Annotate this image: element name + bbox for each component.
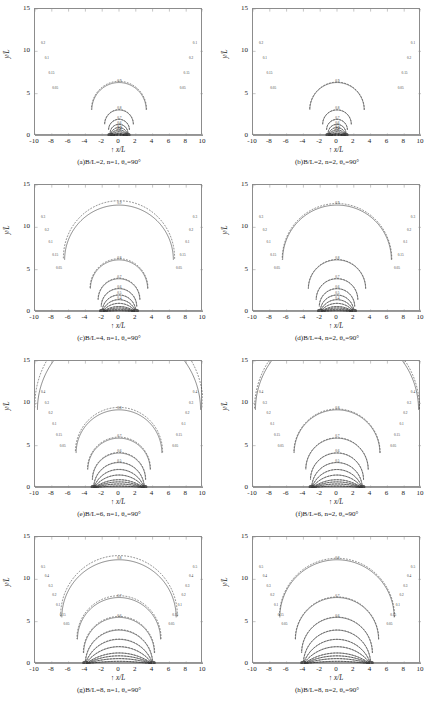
contour-label-g-inner-0.7: 0.7 xyxy=(117,594,122,598)
contour-label-g-left-0.4: 0.4 xyxy=(45,574,50,578)
contour-solid-c-0.9 xyxy=(65,205,174,260)
x-tick-label: -6 xyxy=(277,665,295,673)
contour-label-f-right-0.15: 0.15 xyxy=(394,433,400,437)
y-axis-label-e: y/L xyxy=(3,400,11,412)
contour-label-h-left-0.4: 0.4 xyxy=(263,574,268,578)
contour-label-e-right-0.2: 0.2 xyxy=(185,411,190,415)
x-axis-label-text: x/L xyxy=(116,322,125,330)
x-tick-label: -6 xyxy=(277,489,295,497)
y-tick-label: 15 xyxy=(8,532,30,540)
x-tick-label: 8 xyxy=(394,665,412,673)
contour-label-h-right-0.4: 0.4 xyxy=(407,574,412,578)
x-tick-label: 4 xyxy=(361,489,379,497)
contour-solid-f-0.8 xyxy=(294,410,380,453)
contour-label-a-left-0.05: 0.05 xyxy=(52,86,58,90)
contour-canvas-c: 0.40.50.60.70.80.90.30.20.10.150.050.30.… xyxy=(35,185,203,312)
contour-label-b-left-0.2: 0.2 xyxy=(259,41,264,45)
contour-label-b-inner-0.8: 0.8 xyxy=(335,106,340,110)
x-tick-label: 8 xyxy=(394,313,412,321)
contour-label-d-inner-0.4: 0.4 xyxy=(335,296,340,300)
contour-label-e-right-0.05: 0.05 xyxy=(172,444,178,448)
x-tick-label: -4 xyxy=(75,313,93,321)
y-tick-label: 5 xyxy=(226,441,248,449)
x-tick-label: 6 xyxy=(159,313,177,321)
contour-dashed-g-0.6 xyxy=(83,616,154,652)
x-tick-label: 4 xyxy=(143,665,161,673)
panel-caption-f: (f)B/L=6, n=2, θ₀=90° xyxy=(218,510,436,518)
bottom-note xyxy=(0,697,436,706)
contour-label-e-left-0.2: 0.2 xyxy=(48,411,53,415)
x-tick-label: -6 xyxy=(277,313,295,321)
contour-label-d-left-0.3: 0.3 xyxy=(259,215,264,219)
x-tick-label: 6 xyxy=(377,489,395,497)
contour-label-f-left-0.1: 0.1 xyxy=(270,422,275,426)
x-axis-label-text: x/L xyxy=(334,498,343,506)
contour-label-c-left-0.15: 0.15 xyxy=(52,253,58,257)
panel-e: 0.50.60.70.80.40.30.20.10.150.050.40.30.… xyxy=(0,352,218,528)
contour-label-a-left-0.1: 0.1 xyxy=(45,56,50,60)
x-tick-label: 10 xyxy=(193,137,211,145)
contour-dashed-e-0.4 xyxy=(94,469,145,488)
contour-label-a-right-0.05: 0.05 xyxy=(180,86,186,90)
x-tick-label: 4 xyxy=(361,665,379,673)
x-tick-label: 6 xyxy=(377,137,395,145)
x-axis-label-c: ↑ x/L xyxy=(34,322,202,330)
x-tick-label: -10 xyxy=(25,665,43,673)
contour-canvas-f: 0.50.60.70.80.40.30.20.10.150.050.40.30.… xyxy=(253,361,421,488)
x-tick-label: 0 xyxy=(327,313,345,321)
contour-label-a-inner-0.8: 0.8 xyxy=(117,106,122,110)
contour-label-h-right-0.1: 0.1 xyxy=(396,603,401,607)
contour-label-e-inner-0.7: 0.7 xyxy=(117,434,122,438)
contour-solid-e-0.4 xyxy=(94,470,144,488)
x-tick-label: -6 xyxy=(277,137,295,145)
contour-label-e-right-0.1: 0.1 xyxy=(182,422,187,426)
contour-label-h-inner-0.8: 0.8 xyxy=(335,556,340,560)
x-tick-label: -8 xyxy=(260,137,278,145)
y-tick-label: 0 xyxy=(226,307,248,315)
contour-label-e-inner-0.8: 0.8 xyxy=(117,406,122,410)
contour-label-g-right-0.05: 0.05 xyxy=(169,622,175,626)
x-tick-label: 4 xyxy=(143,137,161,145)
contour-label-f-left-0.3: 0.3 xyxy=(263,401,268,405)
x-tick-label: -10 xyxy=(25,489,43,497)
contour-label-e-left-0.4: 0.4 xyxy=(41,390,46,394)
y-tick-label: 5 xyxy=(226,89,248,97)
contour-label-g-left-0.15: 0.15 xyxy=(60,613,66,617)
contour-label-e-inner-0.5: 0.5 xyxy=(117,459,122,463)
y-tick-label: 0 xyxy=(8,483,30,491)
contour-canvas-g: 0.60.70.80.50.40.30.20.10.150.050.50.40.… xyxy=(35,537,203,664)
contour-dashed-h-0.8 xyxy=(279,558,394,617)
y-axis-label-f: y/L xyxy=(221,400,229,412)
y-axis-label-a: y/L xyxy=(3,48,11,60)
contour-label-f-right-0.4: 0.4 xyxy=(411,390,416,394)
contour-label-c-inner-0.7: 0.7 xyxy=(117,275,122,279)
contour-label-g-right-0.4: 0.4 xyxy=(189,574,194,578)
x-axis-label-text: x/L xyxy=(334,674,343,682)
plot-area-e: 0.50.60.70.80.40.30.20.10.150.050.40.30.… xyxy=(34,360,202,487)
x-tick-label: -8 xyxy=(42,489,60,497)
contour-solid-e-0.8 xyxy=(76,410,162,453)
contour-label-c-right-0.05: 0.05 xyxy=(176,266,182,270)
contour-label-a-inner-0.9: 0.9 xyxy=(117,79,122,83)
x-tick-label: -10 xyxy=(243,665,261,673)
contour-label-c-inner-0.6: 0.6 xyxy=(117,285,122,289)
contour-label-b-left-0.05: 0.05 xyxy=(270,86,276,90)
contour-dashed-c-0.8 xyxy=(90,259,148,289)
contour-solid-f-0.6 xyxy=(311,453,364,480)
contour-label-c-left-0.05: 0.05 xyxy=(56,266,62,270)
x-axis-label-text: x/L xyxy=(334,322,343,330)
x-tick-label: -6 xyxy=(59,313,77,321)
panel-caption-b: (b)B/L=2, n=2, θ₀=90° xyxy=(218,158,436,166)
y-tick-label: 10 xyxy=(8,222,30,230)
y-tick-label: 5 xyxy=(226,265,248,273)
contour-dashed-d-0.9 xyxy=(282,204,392,260)
singular-point-a-left xyxy=(107,133,113,136)
contour-solid-g-0.8 xyxy=(62,560,176,618)
contour-label-f-inner-0.7: 0.7 xyxy=(335,434,340,438)
x-tick-label: -4 xyxy=(75,489,93,497)
x-tick-label: -2 xyxy=(310,313,328,321)
y-tick-label: 5 xyxy=(8,265,30,273)
contour-label-h-right-0.2: 0.2 xyxy=(400,593,405,597)
panel-f: 0.50.60.70.80.40.30.20.10.150.050.40.30.… xyxy=(218,352,436,528)
plot-area-c: 0.40.50.60.70.80.90.30.20.10.150.050.30.… xyxy=(34,184,202,311)
